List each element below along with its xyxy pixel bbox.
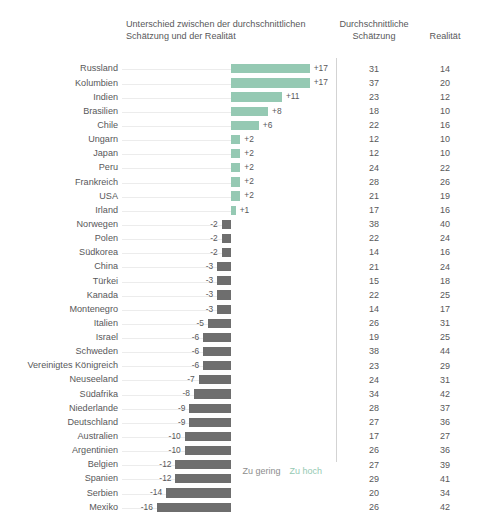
- bar-positive: [231, 191, 240, 200]
- row-label: Irland: [0, 204, 118, 216]
- value-reality: 16: [412, 246, 478, 258]
- row-label: Chile: [0, 119, 118, 131]
- row-label: Neuseeland: [0, 373, 118, 385]
- bar-positive: [231, 135, 240, 144]
- row-label: Israel: [0, 331, 118, 343]
- bar-negative: [166, 488, 231, 497]
- bar-negative: [203, 333, 231, 342]
- bar-positive: [231, 121, 259, 130]
- value-estimate: 24: [336, 162, 412, 174]
- bar-positive: [231, 107, 268, 116]
- row-guide-line: [122, 69, 231, 70]
- bar-value-label: +6: [263, 120, 273, 132]
- row-label: Polen: [0, 232, 118, 244]
- bar-value-label: -7: [187, 374, 194, 386]
- bar-value-label: -2: [210, 247, 217, 259]
- bar-value-label: -10: [169, 431, 181, 443]
- value-reality: 44: [412, 345, 478, 357]
- bar-negative: [194, 389, 231, 398]
- row-guide-line: [122, 126, 231, 127]
- bar-value-label: -6: [192, 332, 199, 344]
- column-header-reality: Realität: [412, 31, 478, 43]
- row-guide-line: [122, 98, 231, 99]
- chart-legend: Zu geringZu hoch: [0, 466, 336, 476]
- value-estimate: 26: [336, 444, 412, 456]
- row-label: Türkei: [0, 275, 118, 287]
- value-reality: 25: [412, 289, 478, 301]
- value-reality: 42: [412, 388, 478, 400]
- row-label: Italien: [0, 317, 118, 329]
- value-reality: 19: [412, 190, 478, 202]
- chart-row: Brasilien+81810: [0, 104, 486, 118]
- value-reality: 10: [412, 133, 478, 145]
- value-reality: 12: [412, 91, 478, 103]
- value-estimate: 34: [336, 388, 412, 400]
- row-guide-line: [122, 211, 231, 212]
- row-guide-line: [122, 282, 217, 283]
- value-estimate: 21: [336, 190, 412, 202]
- row-label: USA: [0, 190, 118, 202]
- chart-row: Indien+112312: [0, 90, 486, 104]
- bar-positive: [231, 64, 310, 73]
- value-estimate: 18: [336, 105, 412, 117]
- bar-negative: [217, 290, 231, 299]
- value-estimate: 20: [336, 487, 412, 499]
- bar-value-label: -8: [183, 388, 190, 400]
- bar-value-label: -2: [210, 219, 217, 231]
- bar-negative: [203, 347, 231, 356]
- bar-positive: [231, 78, 310, 87]
- bar-positive: [231, 177, 240, 186]
- bar-value-label: -6: [192, 360, 199, 372]
- bar-value-label: -3: [206, 289, 213, 301]
- bar-negative: [222, 234, 231, 243]
- legend-item-too-low: Zu gering: [242, 466, 280, 476]
- legend-item-too-high: Zu hoch: [289, 466, 322, 476]
- row-guide-line: [122, 197, 231, 198]
- chart-row: Italien-52631: [0, 317, 486, 331]
- chart-row: Kanada-32225: [0, 288, 486, 302]
- value-reality: 20: [412, 77, 478, 89]
- value-reality: 10: [412, 147, 478, 159]
- row-guide-line: [122, 112, 231, 113]
- value-reality: 41: [412, 473, 478, 485]
- row-label: Mexiko: [0, 501, 118, 513]
- chart-row: USA+22119: [0, 189, 486, 203]
- bar-negative: [217, 305, 231, 314]
- value-estimate: 17: [336, 204, 412, 216]
- bar-negative: [208, 319, 231, 328]
- value-reality: 29: [412, 360, 478, 372]
- chart-rows: Russland+173114Kolumbien+173720Indien+11…: [0, 62, 486, 515]
- row-guide-line: [122, 239, 222, 240]
- value-reality: 27: [412, 430, 478, 442]
- value-estimate: 26: [336, 317, 412, 329]
- value-reality: 36: [412, 444, 478, 456]
- row-label: Ungarn: [0, 133, 118, 145]
- bar-negative: [189, 404, 231, 413]
- bar-negative: [222, 220, 231, 229]
- bar-negative: [185, 446, 231, 455]
- row-guide-line: [122, 324, 208, 325]
- bar-negative: [203, 361, 231, 370]
- bar-value-label: -14: [150, 487, 162, 499]
- value-estimate: 27: [336, 459, 412, 471]
- value-estimate: 22: [336, 119, 412, 131]
- chart-row: Montenegro-31417: [0, 302, 486, 316]
- row-guide-line: [122, 140, 231, 141]
- value-reality: 18: [412, 275, 478, 287]
- row-label: Kolumbien: [0, 77, 118, 89]
- row-label: China: [0, 260, 118, 272]
- value-estimate: 29: [336, 473, 412, 485]
- bar-value-label: +2: [244, 176, 254, 188]
- value-estimate: 17: [336, 430, 412, 442]
- chart-row: Deutschland-92736: [0, 416, 486, 430]
- bar-negative: [217, 262, 231, 271]
- value-reality: 16: [412, 204, 478, 216]
- row-label: Montenegro: [0, 303, 118, 315]
- row-guide-line: [122, 168, 231, 169]
- chart-row: Schweden-63844: [0, 345, 486, 359]
- bar-value-label: +2: [244, 148, 254, 160]
- value-estimate: 14: [336, 303, 412, 315]
- value-estimate: 14: [336, 246, 412, 258]
- value-reality: 36: [412, 416, 478, 428]
